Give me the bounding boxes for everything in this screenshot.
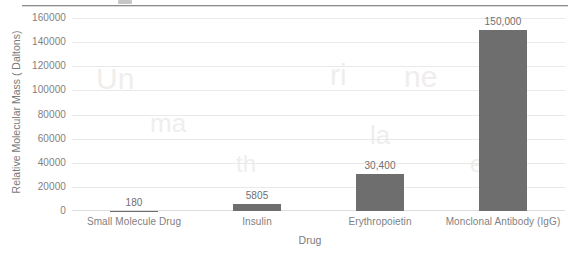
page-divider-rule [22,5,568,6]
y-tick-label: 60000 [38,134,66,144]
bar-insulin[interactable] [233,204,281,211]
x-tick-label-erythropoietin: Erythropoietin [348,216,411,227]
bar-erythropoietin[interactable] [356,174,404,211]
bar-chart: Relative Molecular Mass ( Daltons) 16000… [0,0,585,260]
bar-monoclonal-antibody[interactable] [479,30,527,211]
x-tick-label-insulin: Insulin [242,216,272,227]
bar-value-label: 180 [126,198,143,208]
y-tick-label: 20000 [38,182,66,192]
x-tick-label-small-molecule-drug: Small Molecule Drug [87,216,181,227]
y-axis-tick-labels: 160000 140000 120000 100000 80000 60000 … [0,18,66,211]
y-tick-label: 0 [60,206,66,216]
bar-value-label: 150,000 [485,17,522,27]
y-tick-label: 160000 [32,13,66,23]
bar-value-label: 30,400 [364,161,395,171]
y-tick-label: 40000 [38,158,66,168]
y-tick-label: 80000 [38,110,66,120]
y-tick-label: 120000 [32,61,66,71]
x-tick-label-monoclonal-antibody: Monclonal Antibody (IgG) [446,216,561,227]
bar-value-label: 5805 [246,191,269,201]
y-tick-label: 140000 [32,37,66,47]
y-tick-label: 100000 [32,85,66,95]
x-axis-title: Drug [299,234,322,246]
cropped-text-fragment [118,0,132,4]
plot-area [72,18,565,211]
